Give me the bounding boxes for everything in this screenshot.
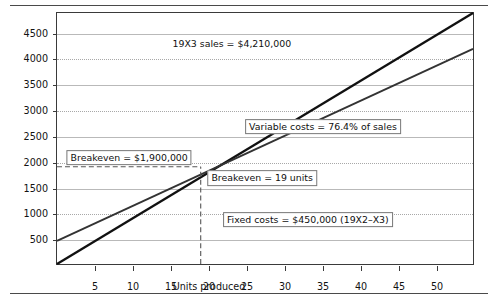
x-tick-mark-30: [285, 266, 286, 271]
x-tick-mark-50: [437, 266, 438, 271]
breakeven-dollar-annotation: Breakeven = $1,900,000: [67, 150, 192, 166]
y-tick-label-500: 500: [4, 234, 48, 245]
y-tick-label-1000: 1000: [4, 208, 48, 219]
x-tick-label-45: 45: [393, 281, 405, 292]
y-tick-label-2000: 2000: [4, 156, 48, 167]
fixed-costs-annotation: Fixed costs = $450,000 (19X2–X3): [223, 212, 393, 228]
top-divider-rule: [10, 5, 488, 6]
reference-lines-group: [57, 167, 201, 264]
y-tick-label-4500: 4500: [4, 27, 48, 38]
x-tick-mark-10: [133, 266, 134, 271]
x-tick-mark-15: [171, 266, 172, 271]
x-tick-label-30: 30: [279, 281, 291, 292]
x-tick-label-35: 35: [317, 281, 329, 292]
x-tick-label-40: 40: [355, 281, 367, 292]
x-tick-mark-20: [209, 266, 210, 271]
x-tick-mark-35: [323, 266, 324, 271]
x-tick-label-10: 10: [127, 281, 139, 292]
x-tick-label-20: 20: [203, 281, 215, 292]
y-tick-label-2500: 2500: [4, 130, 48, 141]
x-tick-mark-25: [247, 266, 248, 271]
sales-annotation: 19X3 sales = $4,210,000: [169, 37, 294, 51]
variable-costs-annotation: Variable costs = 76.4% of sales: [245, 119, 401, 135]
y-tick-label-3000: 3000: [4, 105, 48, 116]
x-tick-label-50: 50: [431, 281, 443, 292]
x-tick-mark-45: [399, 266, 400, 271]
y-tick-label-4000: 4000: [4, 53, 48, 64]
x-tick-mark-40: [361, 266, 362, 271]
x-tick-mark-5: [95, 266, 96, 271]
bottom-divider-rule: [10, 293, 488, 294]
breakeven-units-annotation: Breakeven = 19 units: [207, 170, 317, 186]
breakeven-analysis-figure: Dollar volume (thousands) Units produced…: [0, 0, 498, 304]
plot-area: 5101520253035404550 19X3 sales = $4,210,…: [56, 12, 474, 265]
y-tick-label-1500: 1500: [4, 182, 48, 193]
x-tick-label-15: 15: [165, 281, 177, 292]
x-tick-label-25: 25: [241, 281, 253, 292]
x-tick-label-5: 5: [92, 281, 98, 292]
y-tick-label-3500: 3500: [4, 79, 48, 90]
